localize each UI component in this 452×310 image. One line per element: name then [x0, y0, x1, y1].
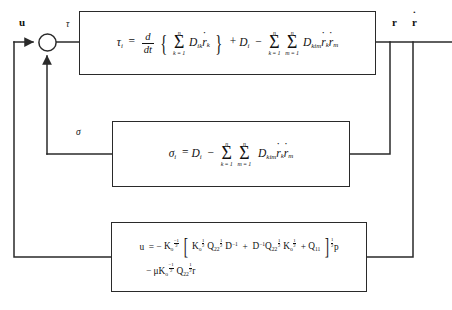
equation-control-line2: − μKo−12 Q2212r — [146, 263, 195, 276]
summing-junction — [36, 31, 59, 54]
signal-label-sigma: σ — [76, 127, 81, 137]
signal-label-u: u — [19, 16, 25, 28]
signal-label-r-dot: r — [412, 16, 417, 28]
control-law-block[interactable]: u = − Ko−12 [ Ko12 Q2212 D−1 + D−1Q2212 … — [111, 222, 367, 292]
signal-label-tau: τ — [66, 19, 69, 29]
block-diagram-canvas: u τ σ r r τi = ddt { nΣk = 1 Dikrk } + D… — [0, 0, 452, 310]
signal-label-r: r — [392, 16, 397, 28]
equation-control-line1: u = − Ko−12 [ Ko12 Q2212 D−1 + D−1Q2212 … — [139, 238, 338, 254]
equation-torque: τi = ddt { nΣk = 1 Dikrk } + Di − nΣk = … — [117, 30, 338, 55]
equation-sigma: σi = Di − nΣk = 1 nΣm = 1 Dkimrkrm — [169, 141, 294, 166]
torque-dynamics-block[interactable]: τi = ddt { nΣk = 1 Dikrk } + Di − nΣk = … — [79, 11, 376, 75]
r-dot-glyph: r — [412, 16, 417, 28]
sigma-feedback-block[interactable]: σi = Di − nΣk = 1 nΣm = 1 Dkimrkrm — [112, 121, 350, 187]
